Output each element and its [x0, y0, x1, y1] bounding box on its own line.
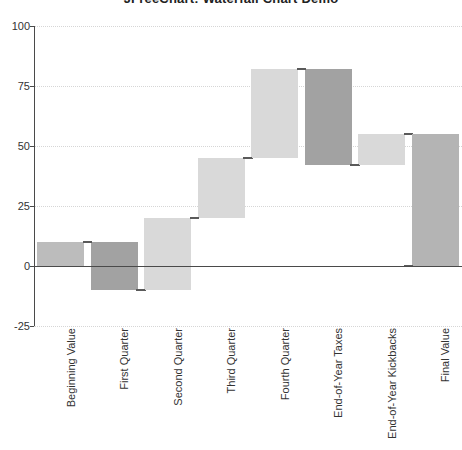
y-axis-tick	[30, 266, 34, 267]
bar-third-quarter[interactable]	[198, 158, 245, 218]
plot-area	[34, 26, 462, 326]
bar-connector-start	[136, 289, 145, 291]
y-axis-tick-label: -25	[14, 321, 30, 332]
bar-end-of-year-taxes[interactable]	[305, 69, 352, 165]
y-axis-tick	[30, 326, 34, 327]
bar-connector-start	[243, 157, 252, 159]
bar-connector-start	[297, 68, 306, 70]
category-label-first-quarter: First Quarter	[119, 328, 130, 390]
bar-second-quarter[interactable]	[144, 218, 191, 290]
range-axis-line	[34, 26, 35, 326]
bar-fourth-quarter[interactable]	[251, 69, 298, 158]
category-label-fourth-quarter: Fourth Quarter	[280, 328, 291, 400]
bar-connector-start	[350, 164, 359, 166]
category-label-beginning-value: Beginning Value	[66, 328, 77, 407]
y-axis-tick	[30, 26, 34, 27]
y-axis-tick-labels: 1007550250-25	[0, 26, 30, 326]
waterfall-chart: JFreeChart: Waterfall Chart Demo 1007550…	[0, 0, 462, 450]
y-axis-tick-label: 50	[18, 141, 30, 152]
x-axis-category-labels: Beginning ValueFirst QuarterSecond Quart…	[34, 328, 462, 450]
y-axis-tick	[30, 206, 34, 207]
bar-connector-start	[190, 217, 199, 219]
gridline	[34, 86, 462, 87]
bar-end-of-year-kickbacks[interactable]	[358, 134, 405, 165]
category-label-third-quarter: Third Quarter	[226, 328, 237, 393]
y-axis-tick-label: 100	[12, 21, 30, 32]
y-axis-tick-label: 25	[18, 201, 30, 212]
category-label-second-quarter: Second Quarter	[173, 328, 184, 406]
category-label-end-of-year-kickbacks: End-of-Year Kickbacks	[387, 328, 398, 439]
bar-final-value[interactable]	[412, 134, 459, 266]
domain-axis-line	[34, 266, 462, 267]
bar-beginning-value[interactable]	[37, 242, 84, 266]
bar-connector-start	[83, 241, 92, 243]
y-axis-tick	[30, 146, 34, 147]
y-axis-tick-label: 75	[18, 81, 30, 92]
category-label-final-value: Final Value	[440, 328, 451, 382]
gridline	[34, 26, 462, 27]
y-axis-tick	[30, 86, 34, 87]
chart-title: JFreeChart: Waterfall Chart Demo	[0, 0, 462, 6]
category-label-end-of-year-taxes: End-of-Year Taxes	[333, 328, 344, 418]
gridline	[34, 206, 462, 207]
gridline	[34, 326, 462, 327]
